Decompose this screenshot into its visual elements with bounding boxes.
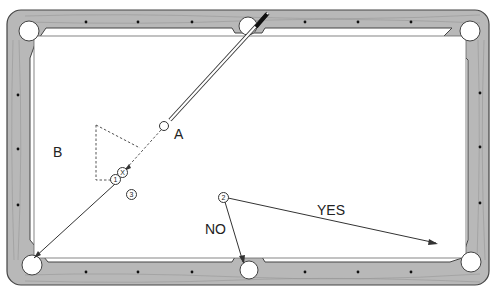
- pocket-top-right: [460, 21, 480, 41]
- pocket-top-left: [19, 21, 39, 41]
- pocket-bottom-left: [22, 255, 42, 275]
- label-b: B: [53, 145, 62, 159]
- ball-2-marker: 2: [218, 192, 229, 203]
- pocket-bottom-center: [240, 261, 258, 279]
- pocket-bottom-right: [461, 252, 481, 272]
- label-no: NO: [205, 222, 226, 236]
- pool-table-svg: [0, 0, 497, 292]
- ghost-ball-x-marker: X: [117, 167, 128, 178]
- label-a: A: [174, 127, 183, 141]
- pool-table-diagram: A B YES NO 1 X 3 2: [0, 0, 497, 292]
- cue-ball: [160, 122, 169, 131]
- ball-3-marker: 3: [126, 189, 137, 200]
- table-rails: [7, 10, 489, 285]
- label-yes: YES: [317, 203, 345, 217]
